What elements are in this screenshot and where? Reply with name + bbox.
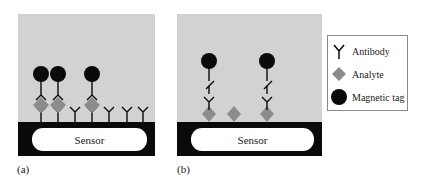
analyte-site xyxy=(201,53,217,122)
binding-site xyxy=(104,107,114,122)
binding-site xyxy=(50,66,66,122)
analyte-site xyxy=(227,106,241,122)
binding-site xyxy=(122,107,132,122)
magnetic-tag-icon xyxy=(84,66,100,82)
sensor-label: Sensor xyxy=(75,134,105,146)
legend-label: Analyte xyxy=(352,69,384,80)
antibody-icon xyxy=(70,107,80,122)
magnetic-tag-icon xyxy=(259,53,275,69)
antibody-icon xyxy=(122,107,132,122)
binding-site xyxy=(70,107,80,122)
antibody-icon xyxy=(264,67,272,94)
binding-site xyxy=(84,66,100,122)
binding-site xyxy=(138,107,148,122)
magnetic-tag-icon xyxy=(201,53,217,69)
analyte-diamond-icon xyxy=(328,66,350,82)
sensor: Sensor xyxy=(191,128,314,151)
sensor-substrate: Sensor xyxy=(18,122,155,156)
legend-label: Magnetic tag xyxy=(352,92,404,103)
legend: Antibody Analyte Magnetic tag xyxy=(327,35,408,111)
figure-label-a: (a) xyxy=(17,163,29,175)
panel-a-sandwich-assay: Sensor xyxy=(18,14,155,156)
antibody-icon xyxy=(206,67,214,94)
panel-b-competitive-assay: Sensor xyxy=(177,14,322,156)
legend-item-magnetic-tag: Magnetic tag xyxy=(328,86,407,108)
magnetic-tag-icon xyxy=(33,66,49,82)
antibody-icon xyxy=(104,107,114,122)
sensor: Sensor xyxy=(32,128,147,151)
binding-site xyxy=(33,66,49,122)
antibody-icon xyxy=(138,107,148,122)
analyte-diamond-icon xyxy=(50,97,66,113)
sensor-substrate: Sensor xyxy=(177,122,322,156)
analyte-site xyxy=(259,53,275,122)
sensor-label: Sensor xyxy=(238,134,268,146)
figure-label-b: (b) xyxy=(177,163,190,175)
antibody-icon xyxy=(262,97,272,110)
analyte-diamond-icon xyxy=(84,97,100,113)
analyte-diamond-icon xyxy=(33,97,49,113)
legend-label: Antibody xyxy=(352,46,390,57)
antibody-icon xyxy=(328,43,350,59)
magnetic-tag-icon xyxy=(50,66,66,82)
legend-item-analyte: Analyte xyxy=(328,63,407,85)
analyte-diamond-icon xyxy=(227,106,241,122)
magnetic-tag-icon xyxy=(328,88,350,106)
antibody-icon xyxy=(204,97,214,110)
legend-item-antibody: Antibody xyxy=(328,40,407,62)
